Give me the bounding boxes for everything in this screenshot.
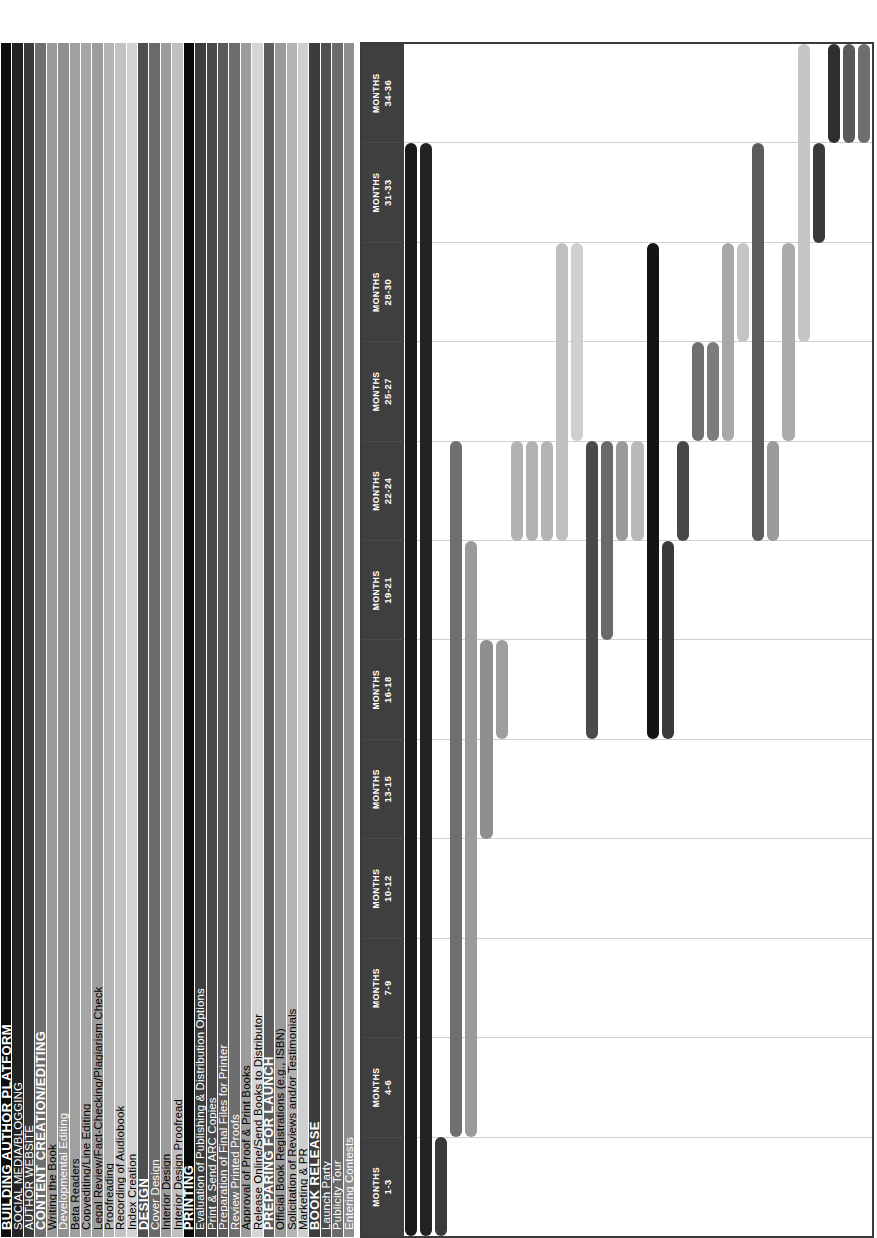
task-bar[interactable]	[677, 441, 689, 540]
task-bar[interactable]	[843, 44, 855, 143]
task-label-text: BUILDING AUTHOR PLATFORM	[1, 1024, 12, 1230]
month-header-cell: MONTHS22-24	[362, 441, 403, 540]
task-label-text: Launch Party	[321, 1161, 332, 1230]
timeline-row	[540, 44, 555, 1236]
month-header-line2: 13-15	[382, 776, 394, 803]
task-label-row[interactable]: AUTHOR WEBSITE	[24, 43, 35, 1237]
task-label-row[interactable]: Preparation of Final Files for Printer	[218, 43, 229, 1237]
task-label-row[interactable]: Proofreading	[104, 43, 115, 1237]
task-label-row[interactable]: SOCIAL MEDIA/BLOGGING	[12, 43, 23, 1237]
gantt-chart: BUILDING AUTHOR PLATFORMSOCIAL MEDIA/BLO…	[0, 0, 877, 1238]
timeline-row	[721, 44, 736, 1236]
task-bar[interactable]	[767, 441, 779, 540]
task-label-row[interactable]: Publicity Tour	[332, 43, 343, 1237]
task-bar[interactable]	[662, 541, 674, 740]
phase-label-row[interactable]: CONTENT CREATION/EDITING	[35, 43, 46, 1237]
task-label-row[interactable]: Print & Send ARC Copies	[207, 43, 218, 1237]
task-label-text: Writing the Book	[47, 1144, 58, 1230]
task-bar[interactable]	[541, 441, 553, 540]
task-bar[interactable]	[828, 44, 840, 143]
phase-bar[interactable]	[813, 143, 825, 242]
task-bar[interactable]	[511, 441, 523, 540]
task-bar[interactable]	[496, 640, 508, 739]
task-bar[interactable]	[782, 243, 794, 442]
timeline-row	[510, 44, 525, 1236]
month-header-line1: MONTHS	[371, 471, 382, 511]
phase-bar[interactable]	[586, 441, 598, 739]
task-label-row[interactable]: Beta Readers	[70, 43, 81, 1237]
task-bar[interactable]	[601, 441, 613, 640]
task-bar[interactable]	[480, 640, 492, 839]
task-bar[interactable]	[420, 143, 432, 1236]
task-bar[interactable]	[556, 243, 568, 541]
timeline-row	[525, 44, 540, 1236]
task-label-row[interactable]: Evaluation of Publishing & Distribution …	[195, 43, 206, 1237]
task-label-row[interactable]: Solicitation of Reviews and/or Testimoni…	[287, 43, 298, 1237]
task-label-row[interactable]: Marketing & PR	[298, 43, 309, 1237]
task-bar[interactable]	[798, 44, 810, 342]
month-header-line2: 34-36	[382, 80, 394, 107]
timeline-row	[751, 44, 766, 1236]
phase-label-row[interactable]: DESIGN	[138, 43, 149, 1237]
month-header-line1: MONTHS	[371, 1067, 382, 1107]
task-bar[interactable]	[707, 342, 719, 441]
month-header-row: MONTHS1-3MONTHS4-6MONTHS7-9MONTHS10-12MO…	[362, 44, 404, 1236]
task-bar[interactable]	[737, 243, 749, 342]
task-label-row[interactable]: Official Book Registrations (e.g., ISBN)	[275, 43, 286, 1237]
task-label-row[interactable]: Copyediting/Line Editing	[81, 43, 92, 1237]
task-bar[interactable]	[692, 342, 704, 441]
task-bar[interactable]	[616, 441, 628, 540]
timeline-row	[434, 44, 449, 1236]
task-bar[interactable]	[465, 541, 477, 1137]
task-label-row[interactable]: Launch Party	[321, 43, 332, 1237]
task-label-row[interactable]: Interior Design Proofread	[172, 43, 183, 1237]
task-label-text: PREPARING FOR LAUNCH	[264, 1056, 275, 1230]
task-label-row[interactable]: Developmental Editing	[58, 43, 69, 1237]
task-bar[interactable]	[858, 44, 870, 143]
month-header-line2: 7-9	[382, 980, 394, 995]
task-label-text: Legal Review/Fact-Checking/Plagiarism Ch…	[92, 987, 103, 1230]
task-bar[interactable]	[435, 1137, 447, 1236]
task-label-row[interactable]: Review Printed Proofs	[229, 43, 240, 1237]
month-header-line2: 10-12	[382, 875, 394, 902]
timeline-row	[555, 44, 570, 1236]
timeline-row	[812, 44, 827, 1236]
task-label-row[interactable]: Cover Design	[149, 43, 160, 1237]
phase-label-row[interactable]: BUILDING AUTHOR PLATFORM	[1, 43, 12, 1237]
task-bar[interactable]	[722, 243, 734, 442]
task-label-row[interactable]: Writing the Book	[47, 43, 58, 1237]
month-header-cell: MONTHS34-36	[362, 44, 403, 142]
phase-bar[interactable]	[647, 243, 659, 740]
task-bar[interactable]	[631, 441, 643, 540]
timeline-row	[781, 44, 796, 1236]
task-label-row[interactable]: Interior Design	[161, 43, 172, 1237]
month-header-line2: 28-30	[382, 279, 394, 306]
month-header-cell: MONTHS4-6	[362, 1037, 403, 1136]
task-label-text: Evaluation of Publishing & Distribution …	[195, 988, 206, 1230]
phase-label-row[interactable]: BOOK RELEASE	[309, 43, 320, 1237]
phase-bar[interactable]	[752, 143, 764, 540]
task-label-row[interactable]: Approval of Proof & Print Books	[241, 43, 252, 1237]
month-header-line1: MONTHS	[371, 173, 382, 213]
task-label-text: Print & Send ARC Copies	[207, 1097, 218, 1230]
task-label-text: Proofreading	[104, 1163, 115, 1230]
month-header-cell: MONTHS1-3	[362, 1137, 403, 1236]
month-header-cell: MONTHS10-12	[362, 838, 403, 937]
task-bar[interactable]	[526, 441, 538, 540]
phase-label-row[interactable]: PRINTING	[184, 43, 195, 1237]
timeline-row	[706, 44, 721, 1236]
task-bar[interactable]	[571, 243, 583, 442]
phase-bar[interactable]	[450, 441, 462, 1136]
month-header-line2: 4-6	[382, 1080, 394, 1095]
task-label-row[interactable]: Recording of Audiobook	[115, 43, 126, 1237]
phase-bar[interactable]	[405, 143, 417, 1236]
task-label-text: Interior Design	[161, 1154, 172, 1230]
task-label-row[interactable]: Legal Review/Fact-Checking/Plagiarism Ch…	[92, 43, 103, 1237]
task-label-row[interactable]: Entering Contests	[344, 43, 355, 1237]
task-label-row[interactable]: Index Creation	[127, 43, 138, 1237]
month-header-line1: MONTHS	[371, 869, 382, 909]
task-label-row[interactable]: Release Online/Send Books to Distributor	[252, 43, 263, 1237]
phase-label-row[interactable]: PREPARING FOR LAUNCH	[264, 43, 275, 1237]
timeline-row	[676, 44, 691, 1236]
timeline-rows	[404, 44, 872, 1236]
